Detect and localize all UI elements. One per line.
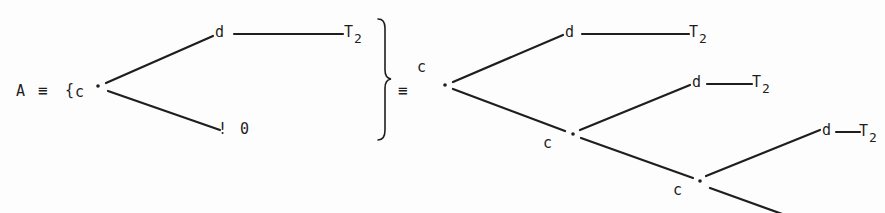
diagram-lines: [0, 0, 885, 213]
rhs-root-upper-edge: [453, 35, 563, 82]
lhs-upper-target-T2: T2: [344, 25, 362, 40]
subscript-2: 2: [869, 130, 877, 145]
lhs-root-label-c: c: [75, 85, 84, 100]
rhs-c2-upper-edge: [580, 85, 690, 130]
lhs-upper-label-d: d: [215, 25, 224, 40]
lhs-name-A: A: [16, 84, 25, 99]
rhs-c3-upper-edge: [706, 130, 820, 176]
tree-equivalence-diagram: A ≡ { c d T2 ! 0 ≡ c d T2 c d T2 c d T2: [0, 0, 885, 213]
closing-brace: [378, 19, 391, 140]
rhs-c2-node-dot: [571, 132, 575, 136]
subscript-2: 2: [354, 31, 362, 46]
rhs-root-node-dot: [443, 83, 447, 87]
rhs-level3-label-d: d: [822, 123, 831, 138]
rhs-level3-target-T2: T2: [859, 124, 877, 139]
rhs-level1-label-d: d: [565, 25, 574, 40]
T-letter: T: [689, 23, 698, 41]
rhs-level1-target-T2: T2: [689, 25, 707, 40]
rhs-c3-lower-edge: [710, 188, 785, 213]
lhs-lower-edge: [108, 91, 220, 130]
lhs-equiv-symbol: ≡: [38, 83, 48, 99]
rhs-level3-node-c: c: [673, 183, 682, 198]
subscript-2: 2: [699, 31, 707, 46]
lhs-lower-target-0: 0: [240, 122, 249, 137]
lhs-upper-edge: [106, 36, 213, 83]
rhs-root-lower-edge: [453, 89, 565, 131]
T-letter: T: [752, 73, 761, 91]
subscript-2: 2: [762, 81, 770, 96]
rhs-c3-node-dot: [698, 179, 702, 183]
rhs-level2-target-T2: T2: [752, 75, 770, 90]
rhs-root-label-c: c: [417, 60, 426, 75]
rhs-c2-lower-edge: [581, 138, 693, 178]
lhs-lower-label-bang: !: [218, 122, 227, 137]
middle-equiv-symbol: ≡: [398, 83, 408, 99]
T-letter: T: [344, 23, 353, 41]
rhs-level2-node-c: c: [543, 136, 552, 151]
T-letter: T: [859, 122, 868, 140]
lhs-root-node-dot: [96, 84, 100, 88]
rhs-level2-label-d: d: [692, 75, 701, 90]
lhs-open-brace: {: [65, 83, 74, 98]
